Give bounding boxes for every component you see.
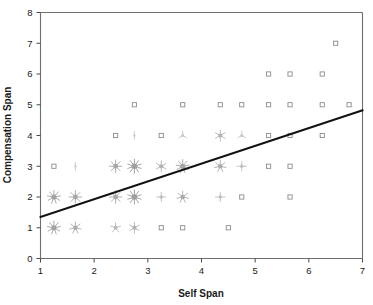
data-point-sunflower: [114, 133, 118, 137]
marker-square: [114, 133, 118, 137]
data-point-sunflower: [266, 133, 270, 137]
data-point-sunflower: [240, 195, 244, 199]
tick-labels-layer: 0123456781234567: [27, 7, 365, 276]
marker-square: [288, 103, 292, 107]
marker-square: [288, 72, 292, 76]
regression-line-layer: [41, 110, 363, 217]
x-tick-label: 1: [38, 265, 43, 276]
marker-hub: [219, 195, 222, 198]
data-point-sunflower: [320, 103, 324, 107]
data-point-sunflower: [181, 226, 185, 230]
data-point-sunflower: [238, 131, 246, 138]
marker-square: [240, 103, 244, 107]
data-point-sunflower: [74, 162, 77, 170]
marker-hub: [132, 226, 136, 230]
marker-square: [181, 226, 185, 230]
data-point-sunflower: [226, 226, 230, 230]
y-tick-label: 1: [27, 222, 32, 233]
data-point-sunflower: [320, 72, 324, 76]
marker-hub: [159, 164, 163, 168]
x-tick-label: 3: [145, 265, 150, 276]
data-point-sunflower: [215, 160, 226, 171]
data-point-sunflower: [266, 164, 270, 168]
y-axis-label: Compensation Span: [2, 87, 13, 184]
x-tick-label: 4: [199, 265, 204, 276]
data-point-sunflower: [132, 103, 136, 107]
y-tick-label: 4: [27, 130, 32, 141]
data-point-sunflower: [347, 103, 351, 107]
marker-hub: [133, 134, 136, 137]
marker-square: [218, 103, 222, 107]
marker-hub: [240, 134, 243, 137]
data-point-sunflower: [109, 160, 121, 172]
data-point-sunflower: [216, 192, 225, 201]
marker-hub: [51, 194, 56, 199]
data-point-sunflower: [69, 191, 81, 203]
marker-hub: [51, 225, 56, 230]
marker-square: [266, 133, 270, 137]
data-point-sunflower: [47, 190, 60, 203]
x-tick-label: 7: [360, 265, 365, 276]
data-point-sunflower: [179, 131, 187, 138]
data-point-sunflower: [157, 161, 166, 172]
plot-canvas: 0123456781234567 Self Span Compensation …: [0, 0, 373, 305]
data-point-sunflower: [177, 191, 188, 202]
data-point-sunflower: [133, 132, 136, 140]
x-tick-label: 2: [92, 265, 97, 276]
marker-square: [52, 164, 56, 168]
regression-line: [41, 110, 363, 217]
x-tick-label: 5: [253, 265, 258, 276]
marker-petal: [184, 136, 187, 138]
y-tick-label: 5: [27, 99, 32, 110]
data-point-sunflower: [128, 159, 141, 173]
marker-square: [288, 195, 292, 199]
marker-square: [320, 103, 324, 107]
data-point-sunflower: [288, 72, 292, 76]
marker-hub: [73, 225, 78, 230]
marker-hub: [218, 133, 222, 137]
marker-hub: [240, 165, 243, 168]
marker-square: [266, 72, 270, 76]
data-point-sunflower: [218, 103, 222, 107]
data-point-sunflower: [288, 164, 292, 168]
scatter-plot-figure: 0123456781234567 Self Span Compensation …: [0, 0, 373, 305]
y-tick-label: 8: [27, 7, 32, 18]
marker-hub: [180, 195, 185, 200]
data-point-sunflower: [70, 222, 81, 233]
data-point-sunflower: [111, 223, 121, 232]
data-point-sunflower: [266, 103, 270, 107]
x-tick-label: 6: [306, 265, 311, 276]
marker-square: [334, 41, 338, 45]
marker-hub: [180, 164, 185, 169]
marker-petal: [179, 136, 182, 138]
data-point-sunflower: [52, 164, 56, 168]
marker-petal: [243, 136, 246, 138]
marker-square: [320, 72, 324, 76]
marker-hub: [132, 194, 138, 200]
marker-petal: [238, 136, 241, 138]
x-axis-label: Self Span: [178, 288, 224, 299]
data-point-sunflower: [288, 103, 292, 107]
data-point-sunflower: [181, 103, 185, 107]
y-tick-label: 6: [27, 68, 32, 79]
marker-square: [132, 103, 136, 107]
marker-square: [347, 103, 351, 107]
marker-square: [266, 103, 270, 107]
data-point-sunflower: [288, 195, 292, 199]
y-tick-label: 0: [27, 253, 32, 264]
marker-hub: [114, 226, 118, 230]
data-point-sunflower: [157, 192, 166, 201]
marker-hub: [132, 163, 138, 169]
data-point-sunflower: [216, 130, 225, 141]
marker-square: [159, 226, 163, 230]
y-tick-label: 3: [27, 161, 32, 172]
axis-tickmarks: [37, 13, 363, 263]
marker-hub: [160, 195, 163, 198]
marker-square: [320, 133, 324, 137]
marker-square: [266, 164, 270, 168]
data-point-sunflower: [47, 221, 60, 234]
data-point-sunflower: [159, 133, 163, 137]
marker-square: [181, 103, 185, 107]
marker-square: [288, 164, 292, 168]
marker-hub: [113, 164, 118, 169]
